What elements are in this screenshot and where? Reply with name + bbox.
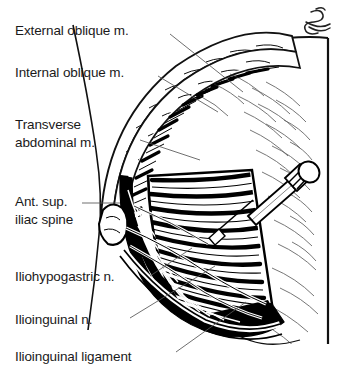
label-iliohypogastric-nerve: Iliohypogastric n.: [15, 268, 115, 285]
iliac-spine-outline: [99, 204, 127, 244]
label-external-oblique: External oblique m.: [15, 22, 129, 39]
label-asis-line1: Ant. sup.: [15, 193, 73, 211]
label-ilioinguinal-nerve: Ilioinguinal n.: [15, 311, 92, 328]
anatomical-figure: External oblique m. Internal oblique m. …: [0, 0, 339, 377]
label-internal-oblique: Internal oblique m.: [15, 64, 124, 81]
label-transverse-abdominal-line2: abdominal m.: [15, 134, 95, 152]
label-transverse-abdominal: Transverse abdominal m.: [15, 116, 95, 152]
asis-bone: [99, 204, 127, 244]
artist-monogram-icon: [305, 8, 330, 34]
label-ilioinguinal-ligament: Ilioinguinal ligament: [15, 348, 131, 365]
label-transverse-abdominal-line1: Transverse: [15, 116, 95, 134]
label-anterior-superior-iliac-spine: Ant. sup. iliac spine: [15, 193, 73, 229]
label-asis-line2: iliac spine: [15, 211, 73, 229]
